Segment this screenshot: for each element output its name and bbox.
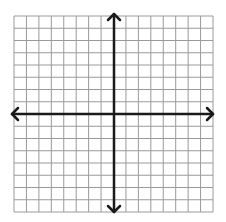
coordinate-plane xyxy=(0,0,226,222)
axes xyxy=(12,14,213,212)
